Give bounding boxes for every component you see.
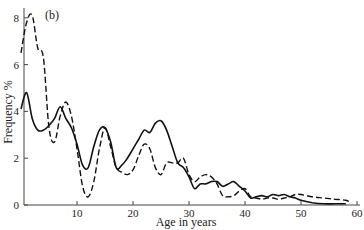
y-tick-label: 8 bbox=[14, 12, 20, 24]
y-axis-title: Frequency % bbox=[1, 80, 15, 144]
y-tick-label: 2 bbox=[14, 152, 20, 164]
x-axis-title: Age in years bbox=[156, 215, 217, 229]
y-tick-label: 0 bbox=[14, 199, 20, 211]
x-tick-label: 50 bbox=[296, 207, 308, 219]
y-tick-label: 6 bbox=[14, 59, 20, 71]
series-dashed-line bbox=[21, 14, 351, 203]
panel-label: (b) bbox=[45, 8, 59, 22]
y-ticks: 02468 bbox=[14, 12, 29, 211]
x-tick-label: 20 bbox=[128, 207, 140, 219]
x-tick-label: 40 bbox=[240, 207, 252, 219]
x-tick-label: 60 bbox=[352, 207, 364, 219]
axes bbox=[24, 8, 360, 205]
x-tick-label: 10 bbox=[72, 207, 84, 219]
frequency-age-chart: 02468 102030405060 (b) Age in years Freq… bbox=[0, 0, 364, 230]
